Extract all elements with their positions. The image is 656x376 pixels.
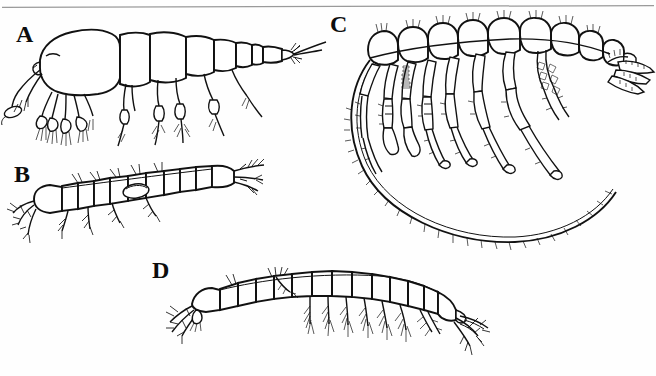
panel-a: A — [0, 12, 330, 147]
panel-c: C — [310, 6, 656, 260]
figure-plate: A — [0, 0, 656, 376]
panel-d-artwork — [120, 252, 540, 376]
panel-d: D — [120, 252, 540, 376]
panel-b-artwork — [0, 155, 330, 255]
panel-a-artwork — [0, 12, 330, 147]
panel-c-artwork — [310, 6, 656, 260]
panel-b: B — [0, 155, 330, 255]
